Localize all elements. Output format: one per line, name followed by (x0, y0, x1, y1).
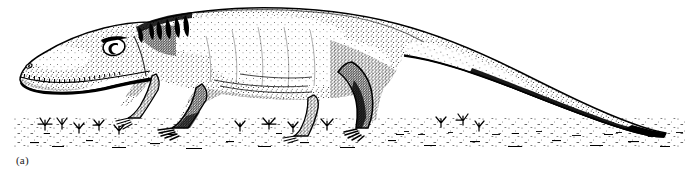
reptile-illustration (0, 0, 696, 180)
panel-label: (a) (16, 154, 29, 167)
figure-panel: (a) (0, 0, 696, 180)
